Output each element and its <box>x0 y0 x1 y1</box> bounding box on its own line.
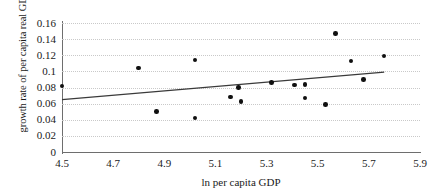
x-tick-label: 5.3 <box>247 157 287 169</box>
x-tick-label: 4.5 <box>42 157 82 169</box>
scatter-chart-figure: growth rate of per capita real GDP 00.02… <box>0 0 436 196</box>
y-tick-label: 0.12 <box>8 50 56 61</box>
y-tick-label: 0.08 <box>8 82 56 93</box>
y-tick-label: 0.16 <box>8 18 56 29</box>
x-axis-title: ln per capita GDP <box>62 176 420 188</box>
x-axis-line <box>62 152 421 153</box>
y-tick-label: 0 <box>8 147 56 158</box>
trendline <box>62 23 420 152</box>
data-point <box>239 99 244 104</box>
x-tick-label: 5.5 <box>298 157 338 169</box>
data-point <box>269 80 274 85</box>
y-tick-label: 0.1 <box>8 66 56 77</box>
x-tick-label: 5.9 <box>400 157 436 169</box>
x-tick-label: 4.7 <box>93 157 133 169</box>
data-point <box>323 102 328 107</box>
y-tick-label: 0.02 <box>8 130 56 141</box>
y-tick-label: 0.04 <box>8 114 56 125</box>
plot-area <box>62 23 420 152</box>
data-point <box>361 77 366 82</box>
x-tick-label: 5.1 <box>195 157 235 169</box>
data-point <box>303 82 308 87</box>
x-tick-label: 4.9 <box>144 157 184 169</box>
data-point <box>154 109 159 114</box>
data-series-layer <box>62 23 420 152</box>
data-point <box>236 85 241 90</box>
y-tick-label: 0.14 <box>8 34 56 45</box>
y-axis-title: growth rate of per capita real GDP <box>17 0 28 142</box>
x-axis-tick-labels: 4.54.74.95.15.35.55.75.9 <box>0 157 436 173</box>
data-point <box>333 31 338 36</box>
y-tick-label: 0.06 <box>8 98 56 109</box>
x-tick-label: 5.7 <box>349 157 389 169</box>
